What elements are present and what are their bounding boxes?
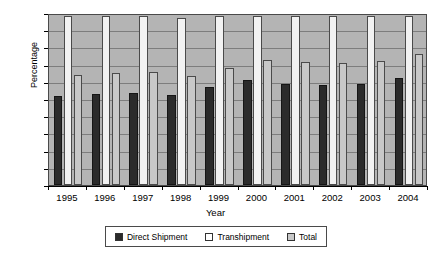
y-axis-tick-mark [44, 14, 48, 15]
bar [405, 16, 414, 185]
bar [129, 93, 138, 185]
bar [243, 80, 252, 185]
bar [291, 16, 300, 185]
bar [149, 72, 158, 185]
bar [281, 84, 290, 185]
x-axis-tick-label: 2002 [312, 192, 352, 203]
bar [187, 76, 196, 185]
chart-legend: Direct Shipment Transhipment Total [105, 226, 327, 247]
bar [102, 16, 111, 185]
bar [301, 62, 310, 185]
bar-group [125, 15, 163, 185]
bar [377, 61, 386, 185]
bar [367, 16, 376, 185]
bar-group [87, 15, 125, 185]
bar [215, 16, 224, 185]
x-axis-tick-mark [351, 186, 352, 190]
legend-label-transhipment: Transhipment [217, 232, 269, 242]
x-axis-tick-label: 1998 [161, 192, 201, 203]
y-axis-tick-mark [44, 134, 48, 135]
bar [54, 96, 63, 185]
bar [415, 54, 424, 185]
x-axis-tick-mark [86, 186, 87, 190]
x-axis-tick-mark [313, 186, 314, 190]
legend-swatch-transhipment [205, 233, 213, 241]
bar [339, 63, 348, 185]
x-axis-tick-mark [48, 186, 49, 190]
bar [319, 85, 328, 185]
bar-chart: Percentage Year Direct Shipment Tranship… [0, 0, 431, 257]
legend-swatch-total [287, 233, 295, 241]
x-axis-tick-mark [124, 186, 125, 190]
x-axis-tick-label: 1999 [199, 192, 239, 203]
bar-group [390, 15, 428, 185]
bar [139, 16, 148, 185]
bar [395, 78, 404, 185]
y-axis-tick-mark [44, 48, 48, 49]
x-axis-tick-label: 2001 [274, 192, 314, 203]
legend-label-direct-shipment: Direct Shipment [127, 232, 187, 242]
bar-group [352, 15, 390, 185]
x-axis-tick-label: 1996 [85, 192, 125, 203]
y-axis-tick-mark [44, 66, 48, 67]
legend-item: Total [287, 232, 317, 242]
x-axis-tick-mark [200, 186, 201, 190]
y-axis-title: Percentage [29, 25, 39, 105]
bar [177, 18, 186, 185]
x-axis-tick-mark [238, 186, 239, 190]
bar [253, 16, 262, 185]
bar [357, 84, 366, 185]
x-axis-tick-label: 1995 [47, 192, 87, 203]
legend-item: Transhipment [205, 232, 269, 242]
y-axis-tick-mark [44, 83, 48, 84]
legend-item: Direct Shipment [115, 232, 187, 242]
bar-group [239, 15, 277, 185]
legend-swatch-direct-shipment [115, 233, 123, 241]
y-axis-tick-mark [44, 31, 48, 32]
x-axis-title: Year [0, 207, 431, 218]
y-axis-tick-mark [44, 169, 48, 170]
x-axis-tick-label: 2000 [236, 192, 276, 203]
x-axis-tick-mark [275, 186, 276, 190]
bar [74, 75, 83, 185]
bar-group [201, 15, 239, 185]
x-axis-tick-label: 1997 [123, 192, 163, 203]
x-axis-tick-mark [427, 186, 428, 190]
bar [329, 16, 338, 185]
bar-group [163, 15, 201, 185]
x-axis-tick-label: 2004 [388, 192, 428, 203]
plot-area [48, 14, 427, 186]
bar [92, 94, 101, 185]
bar [112, 73, 121, 185]
bar [225, 68, 234, 185]
bar-group [314, 15, 352, 185]
bar [263, 60, 272, 185]
x-axis-tick-mark [162, 186, 163, 190]
bar [64, 16, 73, 185]
y-axis-tick-mark [44, 100, 48, 101]
bar-group [276, 15, 314, 185]
bar [205, 87, 214, 185]
legend-label-total: Total [299, 232, 317, 242]
bar-group [49, 15, 87, 185]
x-axis-tick-mark [389, 186, 390, 190]
y-axis-tick-mark [44, 117, 48, 118]
bar [167, 95, 176, 185]
x-axis-tick-label: 2003 [350, 192, 390, 203]
y-axis-tick-mark [44, 152, 48, 153]
